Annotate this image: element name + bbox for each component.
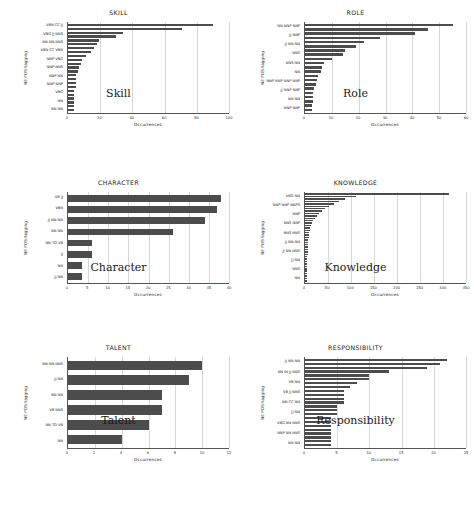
figure-caption-talent: Talent — [0, 414, 237, 427]
x-tick-label: 200 — [393, 286, 400, 290]
bar — [305, 66, 322, 69]
x-tick-label: 350 — [462, 286, 469, 290]
bar — [68, 24, 213, 26]
bar — [305, 390, 344, 392]
chart-title-responsibility: RESPONSIBILITY — [237, 335, 474, 351]
x-tick-label: 0 — [66, 286, 68, 290]
figure-grid: SKILL NE POS-tagging VBN CC JJVBG JJ NNS… — [0, 0, 474, 508]
x-tick-label: 50 — [325, 286, 330, 290]
x-tick-label: 2 — [93, 451, 95, 455]
figure-cell-talent: TALENT NE POS-tagging NN NN NNSJJ NNNN N… — [0, 335, 237, 508]
y-tick-label: NN NNP NNP — [277, 25, 300, 29]
y-tick-labels-role: NN NNP NNPJJ NNPJJ NN NNNNSNNS NNNNNNP N… — [253, 22, 302, 114]
axes-role — [304, 22, 466, 114]
figure-caption-knowledge: Knowledge — [237, 261, 474, 274]
x-tick-label: 10 — [200, 451, 205, 455]
y-tick-label: NNP NNP — [47, 83, 63, 87]
bar — [68, 35, 116, 37]
y-tick-label: NNP NN — [49, 75, 63, 79]
x-tick-label: 250 — [416, 286, 423, 290]
x-tick-label: 12 — [227, 451, 232, 455]
plot-area-skill: NE POS-tagging VBN CC JJVBG JJ NNSNN NN … — [0, 22, 237, 114]
y-tick-label: NNP VBG — [47, 58, 63, 62]
bar — [68, 51, 91, 53]
figure-cell-skill: SKILL NE POS-tagging VBN CC JJVBG JJ NNS… — [0, 0, 237, 170]
figure-skill: SKILL NE POS-tagging VBN CC JJVBG JJ NNS… — [0, 0, 237, 114]
x-tick-label: 0 — [303, 286, 305, 290]
bar — [305, 436, 331, 438]
gridline — [229, 357, 230, 448]
y-tick-label: NN — [295, 277, 300, 281]
axes-skill — [67, 22, 229, 114]
bar — [68, 435, 122, 445]
x-tick-label: 100 — [225, 116, 232, 120]
bar — [68, 28, 182, 30]
bar — [68, 390, 162, 400]
x-tick-label: 40 — [227, 286, 232, 290]
bar — [68, 229, 173, 236]
y-tick-label: NN NN NNS — [42, 41, 63, 45]
bar — [305, 53, 343, 56]
bar — [68, 109, 74, 111]
bar — [305, 79, 317, 82]
y-tick-label: JJ NN NN — [285, 43, 300, 47]
bar — [305, 32, 415, 35]
bar — [305, 28, 428, 31]
y-tick-label: JJ NN NN — [285, 241, 300, 245]
x-tick-label: 30 — [186, 286, 191, 290]
bar — [305, 109, 312, 112]
x-tick-label: 300 — [439, 286, 446, 290]
bar — [68, 74, 76, 76]
x-tick-label: 0 — [303, 116, 305, 120]
y-tick-label: NN — [58, 440, 63, 444]
x-axis-label-character: Occurrences — [67, 292, 229, 297]
bar — [305, 398, 344, 400]
y-tick-label: NN — [295, 71, 300, 75]
bar — [305, 24, 453, 27]
y-tick-label: NNS NN — [286, 62, 300, 66]
x-tick-label: 20 — [431, 451, 436, 455]
figure-responsibility: RESPONSIBILITY NE POS-tagging JJ NN NNNN… — [237, 335, 474, 449]
x-tick-label: 60 — [464, 116, 469, 120]
bar-row — [68, 238, 229, 249]
bar — [68, 105, 74, 107]
bars-talent — [68, 357, 229, 448]
plot-area-talent: NE POS-tagging NN NN NNSJJ NNNN NNVB NNS… — [0, 357, 237, 449]
bar — [68, 206, 217, 213]
bar-row — [68, 226, 229, 237]
bar — [68, 43, 97, 45]
bar — [305, 394, 344, 396]
plot-area-role: NE POS-tagging NN NNP NNPJJ NNPJJ NN NNN… — [237, 22, 474, 114]
x-tick-label: 0 — [303, 451, 305, 455]
x-tick-label: 150 — [370, 286, 377, 290]
bar — [305, 58, 332, 61]
bar — [68, 47, 94, 49]
bar — [305, 62, 324, 65]
bar — [305, 444, 331, 446]
x-tick-label: 20 — [146, 286, 151, 290]
bar — [305, 70, 321, 73]
y-tick-labels-responsibility: JJ NN NNNN IN JJ NNSVB NNVB JJ NNSNN CC … — [253, 357, 302, 449]
bar — [68, 63, 81, 65]
figure-cell-role: ROLE NE POS-tagging NN NNP NNPJJ NNPJJ N… — [237, 0, 474, 170]
y-tick-label: JJ NN — [54, 276, 63, 280]
y-tick-label: NN NN NNS — [42, 363, 63, 367]
bar — [305, 75, 318, 78]
y-tick-label: NNS — [292, 52, 300, 56]
figure-character: CHARACTER NE POS-tagging VB JJVBNJJ NN N… — [0, 170, 237, 284]
y-tick-label: NNP NN NNS — [277, 432, 300, 436]
figure-caption-role: Role — [237, 87, 474, 100]
y-tick-label: JJ NN NNS — [283, 250, 300, 254]
chart-title-skill: SKILL — [0, 0, 237, 16]
bars-responsibility — [305, 357, 466, 448]
y-tick-label: NN CC NN — [282, 401, 300, 405]
bar-row — [68, 215, 229, 226]
chart-title-role: ROLE — [237, 0, 474, 16]
figure-role: ROLE NE POS-tagging NN NNP NNPJJ NNPJJ N… — [237, 0, 474, 114]
x-tick-label: 25 — [166, 286, 171, 290]
x-axis-label-skill: Occurrences — [67, 122, 229, 127]
bar — [305, 367, 427, 369]
y-tick-label: VBN — [55, 207, 63, 211]
bar — [305, 49, 345, 52]
y-tick-label: JJ NN NN — [285, 360, 300, 364]
